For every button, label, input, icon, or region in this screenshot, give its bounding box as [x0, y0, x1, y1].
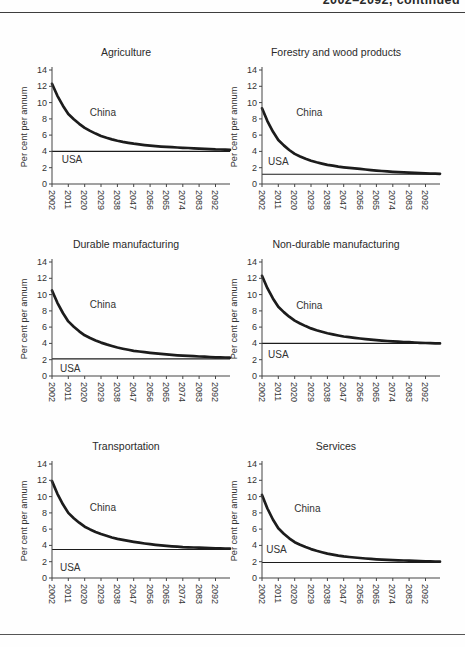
svg-text:2020: 2020 — [289, 190, 299, 210]
svg-text:14: 14 — [247, 459, 257, 469]
svg-text:2: 2 — [42, 355, 47, 365]
svg-text:14: 14 — [247, 65, 257, 75]
svg-text:6: 6 — [42, 130, 47, 140]
svg-text:2056: 2056 — [145, 382, 155, 402]
chart-durable-manufacturing: Durable manufacturing 024681012142002201… — [16, 238, 236, 404]
svg-text:2092: 2092 — [420, 190, 430, 210]
svg-text:6: 6 — [42, 524, 47, 534]
svg-text:2: 2 — [42, 557, 47, 567]
svg-text:2074: 2074 — [177, 584, 187, 604]
svg-text:2029: 2029 — [306, 190, 316, 210]
chart-title: Forestry and wood products — [226, 46, 446, 59]
svg-text:USA: USA — [62, 154, 83, 165]
svg-text:2065: 2065 — [161, 382, 171, 402]
svg-text:2083: 2083 — [194, 584, 204, 604]
svg-text:2065: 2065 — [161, 190, 171, 210]
svg-text:2038: 2038 — [112, 190, 122, 210]
svg-text:2011: 2011 — [63, 382, 73, 401]
svg-text:2056: 2056 — [355, 190, 365, 210]
svg-text:2038: 2038 — [322, 190, 332, 210]
svg-text:USA: USA — [60, 562, 81, 573]
svg-text:2: 2 — [252, 163, 257, 173]
svg-text:12: 12 — [247, 273, 257, 283]
svg-text:China: China — [296, 107, 323, 118]
svg-text:2065: 2065 — [371, 584, 381, 604]
svg-text:10: 10 — [247, 290, 257, 300]
svg-text:2092: 2092 — [420, 584, 430, 604]
svg-text:Per cent per annum: Per cent per annum — [19, 278, 29, 359]
svg-text:2074: 2074 — [387, 382, 397, 402]
svg-text:2002: 2002 — [257, 190, 267, 210]
svg-text:China: China — [90, 299, 117, 310]
svg-text:2065: 2065 — [371, 382, 381, 402]
svg-text:2002: 2002 — [47, 190, 57, 210]
svg-text:2092: 2092 — [210, 382, 220, 402]
svg-text:10: 10 — [37, 98, 47, 108]
bottom-rule — [0, 634, 465, 635]
svg-text:6: 6 — [252, 322, 257, 332]
svg-text:2038: 2038 — [112, 584, 122, 604]
chart-non-durable-manufacturing: Non-durable manufacturing 02468101214200… — [226, 238, 446, 404]
svg-text:2047: 2047 — [128, 382, 138, 402]
svg-text:2047: 2047 — [338, 190, 348, 210]
svg-text:China: China — [296, 300, 323, 311]
svg-text:0: 0 — [252, 179, 257, 189]
svg-text:8: 8 — [252, 306, 257, 316]
svg-text:14: 14 — [247, 257, 257, 267]
svg-text:14: 14 — [37, 459, 47, 469]
svg-text:2029: 2029 — [96, 382, 106, 402]
svg-text:2065: 2065 — [371, 190, 381, 210]
chart-title: Non-durable manufacturing — [226, 238, 446, 251]
svg-text:2: 2 — [42, 163, 47, 173]
svg-text:2083: 2083 — [194, 190, 204, 210]
svg-text:2083: 2083 — [404, 190, 414, 210]
svg-text:2074: 2074 — [387, 584, 397, 604]
svg-text:2020: 2020 — [289, 584, 299, 604]
chart-title: Transportation — [16, 440, 236, 453]
svg-text:2092: 2092 — [420, 382, 430, 402]
chart-canvas: 0246810121420022011202020292038204720562… — [16, 254, 236, 404]
svg-text:2056: 2056 — [145, 190, 155, 210]
svg-text:12: 12 — [247, 475, 257, 485]
svg-text:2: 2 — [252, 355, 257, 365]
svg-text:Per cent per annum: Per cent per annum — [229, 86, 239, 167]
svg-text:Per cent per annum: Per cent per annum — [229, 480, 239, 561]
svg-text:China: China — [90, 502, 117, 513]
svg-text:2029: 2029 — [306, 382, 316, 402]
svg-text:0: 0 — [252, 573, 257, 583]
cropped-caption-text: 2002–2092, continued — [120, 0, 460, 7]
svg-text:USA: USA — [268, 349, 289, 360]
chart-forestry-and-wood-products: Forestry and wood products 0246810121420… — [226, 46, 446, 212]
chart-canvas: 0246810121420022011202020292038204720562… — [16, 456, 236, 606]
svg-text:2: 2 — [252, 557, 257, 567]
page: 2002–2092, continued Agriculture 0246810… — [0, 0, 465, 647]
chart-title: Agriculture — [16, 46, 236, 59]
svg-text:14: 14 — [37, 257, 47, 267]
svg-text:2038: 2038 — [322, 584, 332, 604]
svg-text:0: 0 — [252, 371, 257, 381]
svg-text:2056: 2056 — [145, 584, 155, 604]
svg-text:8: 8 — [42, 114, 47, 124]
svg-text:12: 12 — [247, 81, 257, 91]
chart-title: Durable manufacturing — [16, 238, 236, 251]
svg-text:6: 6 — [252, 524, 257, 534]
svg-text:8: 8 — [252, 114, 257, 124]
svg-text:2029: 2029 — [306, 584, 316, 604]
top-rule — [0, 12, 465, 13]
svg-text:12: 12 — [37, 81, 47, 91]
svg-text:2074: 2074 — [177, 190, 187, 210]
svg-text:USA: USA — [268, 156, 289, 167]
chart-title: Services — [226, 440, 446, 453]
svg-text:8: 8 — [42, 508, 47, 518]
svg-text:2083: 2083 — [194, 382, 204, 402]
svg-text:China: China — [90, 107, 117, 118]
svg-text:6: 6 — [42, 322, 47, 332]
svg-text:2002: 2002 — [257, 584, 267, 604]
svg-text:2074: 2074 — [177, 382, 187, 402]
svg-text:2065: 2065 — [161, 584, 171, 604]
svg-text:2047: 2047 — [128, 584, 138, 604]
svg-text:2092: 2092 — [210, 190, 220, 210]
svg-text:2047: 2047 — [338, 382, 348, 402]
svg-text:10: 10 — [37, 492, 47, 502]
svg-text:0: 0 — [42, 371, 47, 381]
